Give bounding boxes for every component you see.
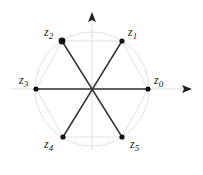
label-z4: z4: [44, 138, 53, 153]
point-z1: [119, 38, 124, 43]
point-z0: [145, 86, 150, 91]
label-z3: z3: [19, 74, 28, 89]
label-z0: z0: [154, 74, 163, 89]
label-z5: z5: [130, 138, 139, 153]
diagram-canvas: [0, 0, 203, 175]
point-z5: [119, 134, 124, 139]
point-z4: [60, 134, 65, 139]
hexagon-diagram: z0 z1 z2 z3 z4 z5: [0, 0, 203, 175]
label-z1: z1: [128, 26, 137, 41]
label-z2: z2: [44, 26, 53, 41]
point-z2: [59, 38, 66, 45]
point-z3: [33, 86, 38, 91]
